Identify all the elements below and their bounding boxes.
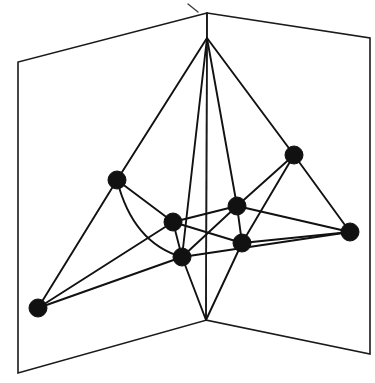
graph-vertex xyxy=(228,197,246,215)
graph-vertex xyxy=(173,248,191,266)
right-half-plane-panel xyxy=(206,13,370,354)
graph-vertex xyxy=(164,213,182,231)
fold-crease-line xyxy=(206,13,207,320)
graph-vertex xyxy=(341,223,359,241)
graph-figure xyxy=(0,0,375,383)
stray-pen-mark xyxy=(188,4,198,12)
left-half-plane-panel xyxy=(18,13,207,373)
graph-vertex xyxy=(285,146,303,164)
graph-vertex xyxy=(233,234,251,252)
figure-container xyxy=(0,0,375,383)
graph-vertex xyxy=(29,299,47,317)
graph-vertex xyxy=(108,171,126,189)
